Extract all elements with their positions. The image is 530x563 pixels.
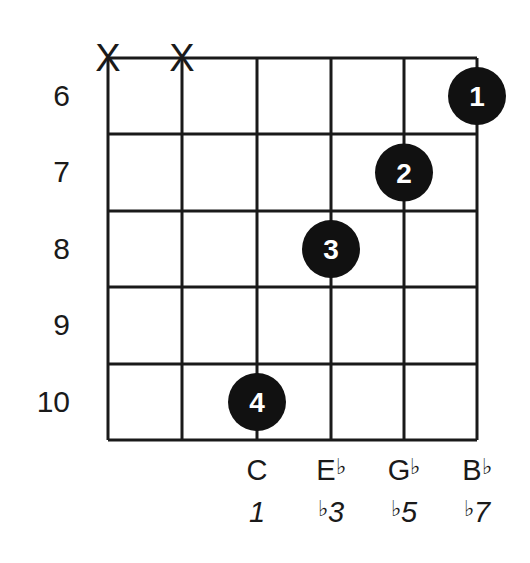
fret-number-10: 10 <box>0 387 70 417</box>
accidental: ♭ <box>410 454 420 479</box>
note-label-bb: B♭ <box>437 452 517 485</box>
note-letter: C <box>247 454 268 486</box>
interval-degree: 1 <box>249 496 265 528</box>
note-label-eb: E♭ <box>291 452 371 485</box>
fret-number-8: 8 <box>0 234 70 264</box>
accidental: ♭ <box>336 454 346 479</box>
note-label-c: C <box>217 452 297 485</box>
accidental: ♭ <box>482 454 492 479</box>
accidental: ♭ <box>391 496 401 521</box>
interval-degree: 7 <box>474 496 490 528</box>
interval-label-1: 1 <box>217 494 297 527</box>
muted-string-x-icon: X <box>95 37 120 79</box>
note-letter: E <box>316 454 335 486</box>
interval-label-b7: ♭7 <box>437 494 517 527</box>
fret-number-6: 6 <box>0 81 70 111</box>
interval-degree: 3 <box>328 496 344 528</box>
finger-number: 1 <box>469 81 485 112</box>
note-letter: B <box>462 454 481 486</box>
finger-number: 2 <box>396 158 412 189</box>
finger-number: 3 <box>323 234 339 265</box>
fret-number-9: 9 <box>0 310 70 340</box>
finger-number: 4 <box>249 387 265 418</box>
note-label-gb: G♭ <box>364 452 444 485</box>
muted-string-x-icon: X <box>169 37 194 79</box>
accidental: ♭ <box>318 496 328 521</box>
note-letter: G <box>388 454 411 486</box>
accidental: ♭ <box>464 496 474 521</box>
chord-diagram: XX1234 6 7 8 9 10 C E♭ G♭ B♭ 1 ♭3 ♭5 ♭7 <box>0 0 530 563</box>
interval-degree: 5 <box>401 496 417 528</box>
interval-label-b3: ♭3 <box>291 494 371 527</box>
interval-label-b5: ♭5 <box>364 494 444 527</box>
fret-number-7: 7 <box>0 157 70 187</box>
